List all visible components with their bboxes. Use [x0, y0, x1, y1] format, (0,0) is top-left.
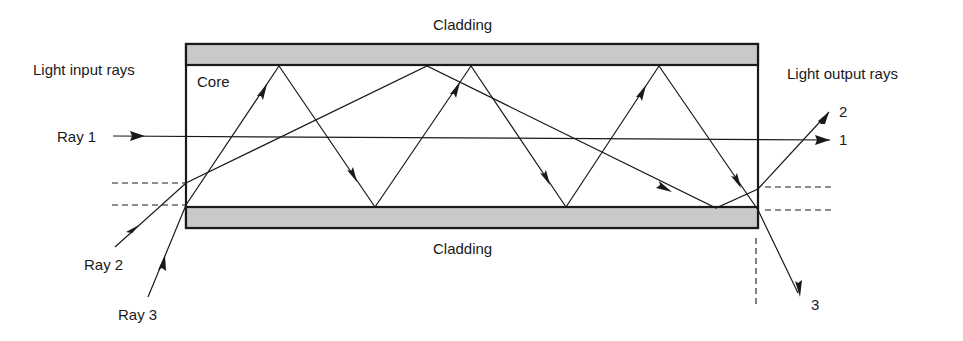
ray-2-output-label: 2: [839, 103, 847, 120]
arrow-icon: [815, 135, 830, 145]
fiber-diagram-svg: Cladding Cladding Core Light input rays …: [0, 0, 963, 341]
output-rays-heading: Light output rays: [787, 65, 898, 82]
cladding-bottom: [186, 207, 758, 228]
ray-1-input-label: Ray 1: [57, 128, 96, 145]
ray-3-output-label: 3: [811, 296, 819, 313]
cladding-top-label: Cladding: [433, 16, 492, 33]
fiber-outline: [186, 44, 758, 228]
ray-3-input-label: Ray 3: [118, 306, 157, 323]
ray-1-output-label: 1: [839, 131, 847, 148]
ray-2-input-label: Ray 2: [84, 256, 123, 273]
input-rays-heading: Light input rays: [33, 61, 135, 78]
cladding-top: [186, 44, 758, 65]
arrow-icon: [130, 131, 145, 141]
arrow-icon: [158, 255, 166, 271]
core-label: Core: [197, 73, 230, 90]
cladding-bottom-label: Cladding: [433, 240, 492, 257]
fiber-diagram: Cladding Cladding Core Light input rays …: [0, 0, 963, 341]
arrow-icon: [818, 112, 829, 124]
